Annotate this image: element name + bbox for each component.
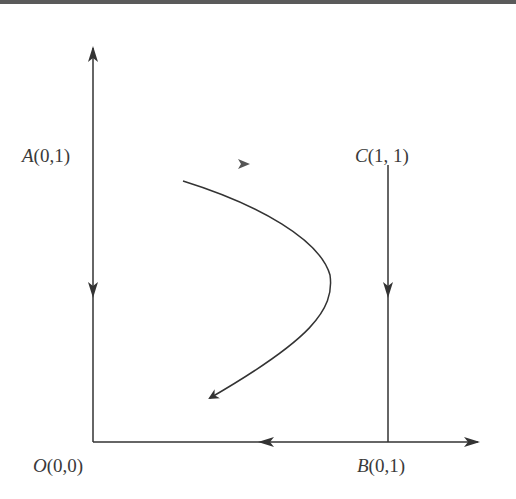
point-label-b: B(0,1) <box>357 456 405 475</box>
point-label-c: C(1, 1) <box>355 146 409 165</box>
point-label-a: A(0,1) <box>22 146 70 165</box>
phase-diagram <box>0 0 516 499</box>
arrow-right-icon <box>238 159 250 169</box>
trajectory-curve <box>183 181 331 398</box>
point-label-o: O(0,0) <box>33 456 83 475</box>
